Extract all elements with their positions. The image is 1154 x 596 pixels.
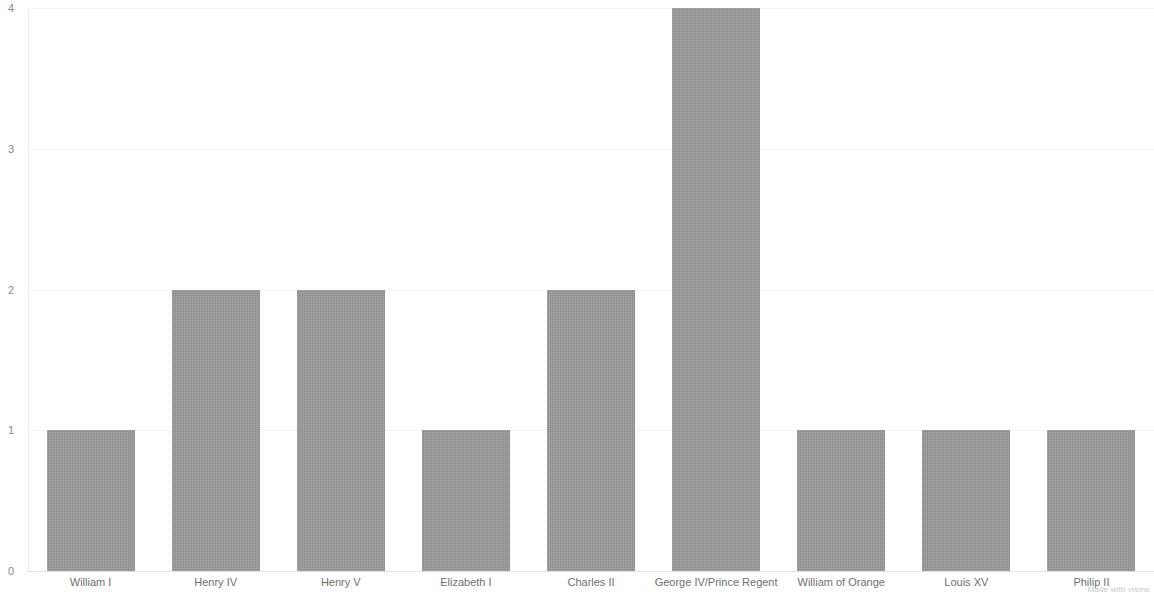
visme-watermark: Made with visme [1087,585,1150,595]
y-axis-tick-label: 0 [0,564,28,578]
y-axis-tick-label: 3 [0,142,28,156]
bar[interactable] [172,290,260,572]
bar[interactable] [547,290,635,572]
y-axis-tick-label: 1 [0,423,28,437]
x-axis-tick-label: William I [28,576,153,589]
plot-area [28,8,1154,571]
x-axis-tick-label: Louis XV [904,576,1029,589]
bar[interactable] [1047,430,1135,571]
x-axis-tick-label: Henry IV [153,576,278,589]
x-axis-tick-label: George IV/Prince Regent [654,576,779,589]
x-axis-tick-label: Henry V [278,576,403,589]
x-axis-tick-label: Elizabeth I [403,576,528,589]
bar[interactable] [47,430,135,571]
bar[interactable] [422,430,510,571]
y-axis-tick-label: 4 [0,1,28,15]
bar[interactable] [797,430,885,571]
x-axis-tick-label: William of Orange [779,576,904,589]
x-axis-tick-label: Charles II [528,576,653,589]
bar[interactable] [297,290,385,572]
bar[interactable] [672,8,760,571]
x-axis-line [28,571,1154,572]
y-axis-tick-label: 2 [0,283,28,297]
bar[interactable] [922,430,1010,571]
bar-chart: 01234 William IHenry IVHenry VElizabeth … [0,0,1154,596]
